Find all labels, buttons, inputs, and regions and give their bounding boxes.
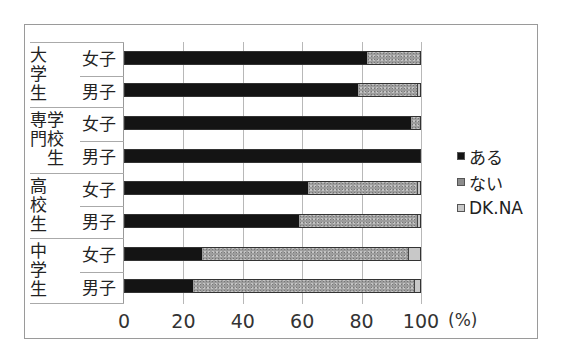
bar-segment-aru — [125, 84, 358, 96]
bar-segment-aru — [125, 248, 202, 260]
row-label: 女子 — [82, 114, 116, 134]
bar-segment-nai — [358, 84, 417, 96]
legend-label: ある — [469, 144, 503, 169]
bar-segment-nai — [411, 117, 420, 129]
bar-segment-nai — [367, 52, 420, 64]
bar-1 — [124, 51, 421, 65]
row-label: 女子 — [82, 245, 116, 265]
bar-4 — [124, 149, 421, 163]
bar-segment-nai — [193, 280, 414, 292]
legend-label: ない — [469, 170, 503, 195]
row-label: 男子 — [82, 147, 116, 167]
gridline — [421, 42, 422, 304]
row-label: 男子 — [82, 82, 116, 102]
bar-3 — [124, 116, 421, 130]
gridline — [362, 42, 363, 304]
bar-segment-aru — [125, 117, 411, 129]
bar-8 — [124, 279, 421, 293]
row-group: 中 学 生女子男子 — [30, 238, 124, 303]
x-tick-label: 40 — [231, 310, 255, 332]
group-label: 中 学 生 — [30, 242, 47, 299]
legend-swatch-icon — [457, 178, 465, 186]
bar-segment-nai — [308, 182, 417, 194]
row-group: 専学 門校 生女子男子 — [30, 107, 124, 172]
gridline — [243, 42, 244, 304]
row-label: 女子 — [82, 180, 116, 200]
bar-7 — [124, 247, 421, 261]
bar-segment-aru — [125, 182, 308, 194]
row-divider — [30, 303, 124, 304]
bar-5 — [124, 181, 421, 195]
legend-item: DK.NA — [457, 195, 523, 221]
group-label: 大 学 生 — [30, 46, 47, 103]
bar-segment-dk — [417, 215, 420, 227]
legend-swatch-icon — [457, 152, 465, 160]
bar-segment-aru — [125, 280, 193, 292]
x-tick-label: 20 — [171, 310, 195, 332]
bar-segment-nai — [299, 215, 417, 227]
x-tick-label: 80 — [350, 310, 374, 332]
bar-segment-dk — [408, 248, 420, 260]
legend-swatch-icon — [457, 204, 465, 212]
bar-segment-aru — [125, 215, 299, 227]
row-divider — [80, 141, 124, 142]
bar-segment-nai — [202, 248, 409, 260]
bar-2 — [124, 83, 421, 97]
row-label: 男子 — [82, 278, 116, 298]
bar-segment-dk — [414, 280, 420, 292]
bar-segment-dk — [417, 182, 420, 194]
x-tick-label: 0 — [118, 310, 130, 332]
gridline — [183, 42, 184, 304]
bar-segment-dk — [417, 84, 420, 96]
legend: あるないDK.NA — [457, 143, 523, 221]
bar-segment-aru — [125, 150, 420, 162]
legend-item: ない — [457, 169, 523, 195]
legend-item: ある — [457, 143, 523, 169]
row-label: 女子 — [82, 49, 116, 69]
row-group: 高 校 生女子男子 — [30, 173, 124, 238]
group-label: 高 校 生 — [30, 177, 47, 234]
x-tick-label: 100 — [403, 310, 439, 332]
row-divider — [80, 76, 124, 77]
x-tick-label: 60 — [290, 310, 314, 332]
group-label: 専学 門校 生 — [30, 111, 64, 168]
bar-segment-aru — [125, 52, 367, 64]
row-divider — [80, 206, 124, 207]
row-divider — [80, 272, 124, 273]
x-axis-unit: (%) — [448, 310, 477, 330]
legend-label: DK.NA — [469, 198, 523, 218]
row-group: 大 学 生女子男子 — [30, 42, 124, 107]
row-label: 男子 — [82, 212, 116, 232]
gridline — [302, 42, 303, 304]
bar-6 — [124, 214, 421, 228]
